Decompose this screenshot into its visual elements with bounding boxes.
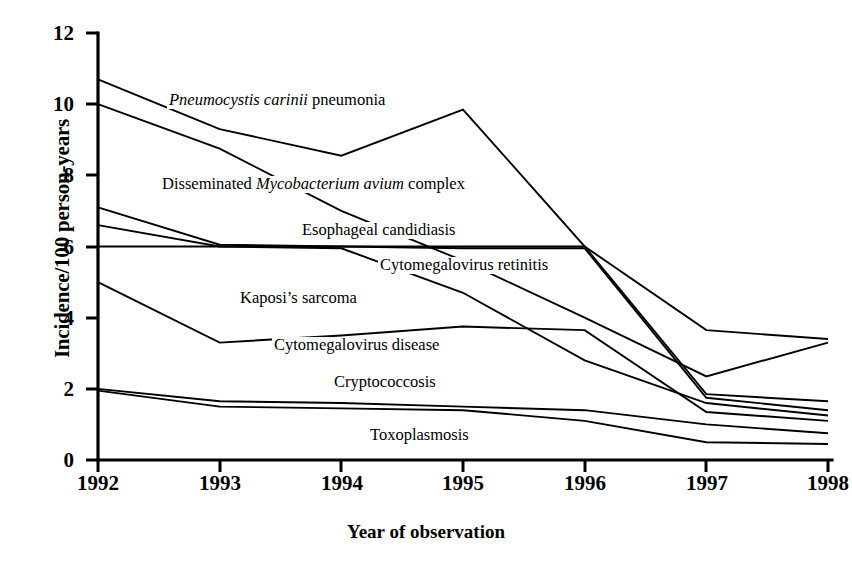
- series-label-pcp-italic: Pneumocystis carinii: [169, 90, 308, 109]
- plot-area: [0, 0, 852, 573]
- series-label-toxoplasmosis: Toxoplasmosis: [368, 427, 471, 444]
- series-line-esophageal-candidiasis: [98, 207, 828, 410]
- series-label-mac-prefix: Disseminated: [162, 174, 256, 193]
- series-label-cytomegalovirus-retinitis: Cytomegalovirus retinitis: [378, 257, 550, 274]
- series-line-cytomegalovirus-retinitis: [98, 225, 828, 415]
- series-line-pneumocystis-carinii-pneumonia: [98, 79, 828, 339]
- series-label-disseminated-mycobacterium-avium-complex: Disseminated Mycobacterium avium complex: [160, 176, 467, 193]
- series-label-mac-suffix: complex: [404, 174, 465, 193]
- series-label-pneumocystis-carinii-pneumonia: Pneumocystis carinii pneumonia: [167, 92, 387, 109]
- series-label-pcp-roman: pneumonia: [308, 90, 385, 109]
- series-label-cytomegalovirus-disease: Cytomegalovirus disease: [272, 337, 441, 354]
- series-label-kaposis-sarcoma: Kaposi’s sarcoma: [238, 290, 359, 307]
- series-label-cryptococcosis: Cryptococcosis: [332, 374, 438, 391]
- series-label-esophageal-candidiasis: Esophageal candidiasis: [300, 222, 458, 239]
- series-label-mac-italic: Mycobacterium avium: [256, 174, 404, 193]
- chart-figure: Incidence/100 person-years 12 10 8 6 4 2…: [0, 0, 852, 573]
